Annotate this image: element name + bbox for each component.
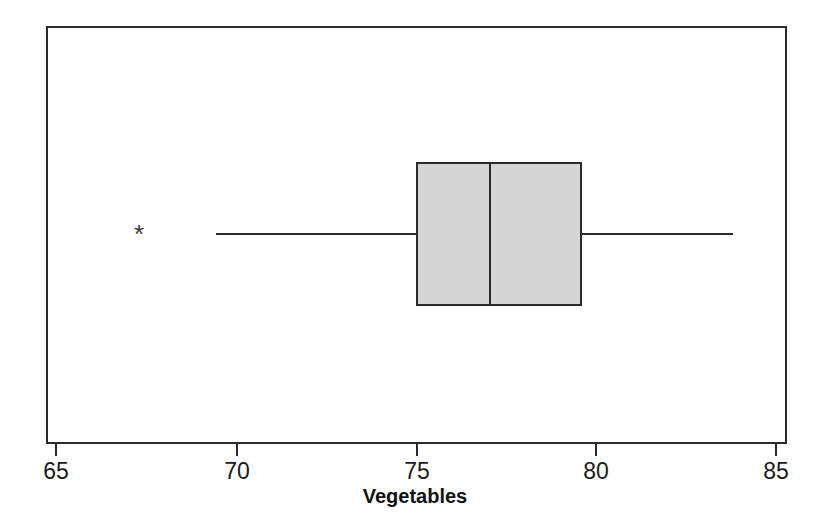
iqr-box: [417, 163, 581, 305]
boxplot-canvas: 65 70 75 80 85 * Vegetables: [0, 0, 824, 525]
x-tick-label-70: 70: [224, 458, 250, 484]
x-tick-label-85: 85: [763, 458, 789, 484]
x-axis-title: Vegetables: [363, 485, 468, 507]
x-tick-label-75: 75: [404, 458, 430, 484]
x-tick-label-80: 80: [583, 458, 609, 484]
plot-background: [0, 0, 824, 525]
boxplot-figure: 65 70 75 80 85 * Vegetables: [0, 0, 824, 525]
x-tick-label-65: 65: [43, 458, 69, 484]
outlier-asterisk: *: [134, 219, 144, 249]
